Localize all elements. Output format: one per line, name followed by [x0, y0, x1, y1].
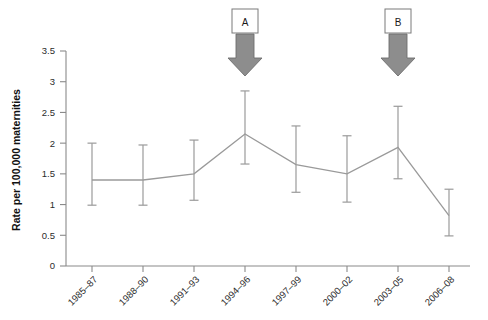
x-axis: 1985–871988–901991–931994–961997–992000–…: [65, 266, 470, 308]
x-tick-label: 2006–08: [422, 274, 456, 308]
y-tick-label: 2.5: [42, 107, 55, 118]
y-tick-label: 1.5: [42, 168, 55, 179]
annotation-label: B: [395, 17, 402, 28]
y-axis-title-group: Rate per 100,000 maternities: [10, 89, 22, 231]
y-tick-label: 3.5: [42, 45, 55, 56]
x-tick-label: 1985–87: [65, 274, 99, 308]
error-bar: [343, 136, 352, 202]
y-tick-group: 00.511.522.533.5: [42, 45, 66, 271]
x-tick-label: 1994–96: [218, 274, 252, 308]
y-tick-label: 3: [50, 76, 55, 87]
annotation-label: A: [242, 17, 249, 28]
error-bar: [445, 189, 454, 236]
error-bar: [139, 145, 148, 205]
y-tick-label: 2: [50, 138, 55, 149]
error-bar-group: [88, 91, 454, 236]
x-tick-label: 2000–02: [320, 274, 354, 308]
series-line-rate: [92, 134, 449, 216]
error-bar: [394, 106, 403, 178]
x-tick-label: 1988–90: [116, 274, 150, 308]
line-chart-with-error-bars: Rate per 100,000 maternities 00.511.522.…: [0, 0, 488, 320]
annotation-a: A: [228, 9, 262, 76]
data-series-group: [92, 134, 449, 216]
chart-figure: Rate per 100,000 maternities 00.511.522.…: [0, 0, 488, 320]
down-arrow-icon: [228, 34, 262, 76]
annotation-b: B: [381, 9, 415, 76]
x-tick-label: 1991–93: [167, 274, 201, 308]
error-bar: [88, 143, 97, 205]
x-tick-group: 1985–871988–901991–931994–961997–992000–…: [65, 266, 456, 308]
y-tick-label: 0.5: [42, 230, 55, 241]
x-tick-label: 2003–05: [371, 274, 405, 308]
error-bar: [292, 126, 301, 192]
error-bar: [190, 140, 199, 200]
error-bar: [241, 91, 250, 164]
annotation-group: AB: [228, 9, 415, 76]
y-axis: 00.511.522.533.5: [42, 45, 66, 271]
y-tick-label: 0: [50, 260, 55, 271]
y-axis-title: Rate per 100,000 maternities: [10, 89, 22, 231]
x-tick-label: 1997–99: [269, 274, 303, 308]
y-tick-label: 1: [50, 199, 55, 210]
down-arrow-icon: [381, 34, 415, 76]
